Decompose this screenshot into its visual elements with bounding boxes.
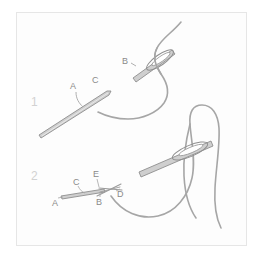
step-2-label-c: C: [73, 178, 80, 187]
figure-root: 1 2 A B C A B C D E: [0, 0, 269, 263]
step-2-label-d: D: [117, 190, 124, 199]
step-2-number: 2: [31, 170, 38, 182]
diagram-panel: [16, 12, 247, 246]
step-1-label-a: A: [70, 82, 76, 91]
step-1-number: 1: [31, 96, 38, 108]
step-2-label-b: B: [96, 198, 102, 207]
step-2-label-e: E: [93, 170, 99, 179]
step-1-label-c: C: [92, 76, 99, 85]
step-2-label-a: A: [52, 199, 58, 208]
step-1-label-b: B: [122, 57, 128, 66]
